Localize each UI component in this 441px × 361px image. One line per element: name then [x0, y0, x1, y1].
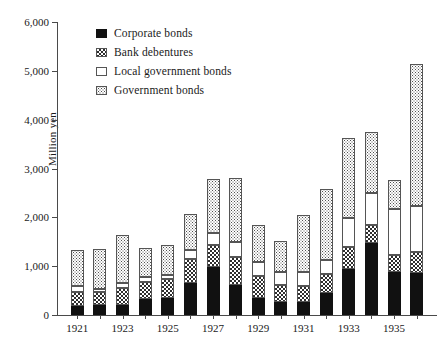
bar-segment-corporate-bonds	[252, 298, 265, 315]
bar-segment-government-bonds	[342, 138, 355, 218]
bar-segment-bank-debentures	[184, 259, 197, 283]
bar-segment-government-bonds	[207, 179, 220, 234]
bar-segment-corporate-bonds	[139, 299, 152, 315]
x-tick-mark	[213, 315, 214, 319]
y-tick-label: 6,000	[24, 16, 49, 28]
bar-segment-government-bonds	[116, 235, 129, 283]
y-tick-mark	[52, 22, 57, 23]
x-tick-label: 1933	[338, 322, 360, 334]
bar-segment-corporate-bonds	[342, 269, 355, 315]
bar-segment-government-bonds	[184, 214, 197, 250]
bar-segment-government-bonds	[320, 189, 333, 260]
bar-1933	[342, 138, 355, 315]
x-tick-mark	[371, 315, 372, 319]
y-tick-label: 5,000	[24, 65, 49, 77]
legend-item: Corporate bonds	[96, 24, 232, 43]
bar-segment-bank-debentures	[93, 292, 106, 305]
bar-segment-bank-debentures	[229, 257, 242, 285]
y-tick-mark	[52, 120, 57, 121]
bar-1931	[297, 215, 310, 315]
bar-segment-corporate-bonds	[116, 305, 129, 315]
bar-1930	[274, 241, 287, 315]
x-tick-mark	[326, 315, 327, 319]
x-tick-mark	[190, 315, 191, 319]
x-axis-line	[57, 315, 437, 316]
chart-legend: Corporate bondsBank debenturesLocal gove…	[96, 24, 232, 100]
x-tick-label: 1929	[247, 322, 269, 334]
bar-segment-government-bonds	[71, 250, 84, 286]
bar-segment-local-government-bonds	[388, 209, 401, 255]
bar-segment-corporate-bonds	[274, 302, 287, 315]
bar-segment-bank-debentures	[297, 286, 310, 302]
x-tick-mark	[394, 315, 395, 319]
bar-1921	[71, 250, 84, 315]
bar-segment-government-bonds	[161, 245, 174, 275]
bar-1929	[252, 225, 265, 315]
white-outline-swatch	[96, 67, 107, 76]
bar-segment-bank-debentures	[320, 274, 333, 293]
x-tick-label: 1931	[293, 322, 315, 334]
bar-segment-bank-debentures	[161, 279, 174, 298]
legend-label: Bank debentures	[114, 47, 193, 59]
y-tick-label: 4,000	[24, 114, 49, 126]
bar-segment-government-bonds	[139, 248, 152, 277]
x-tick-mark	[77, 315, 78, 319]
bar-segment-bank-debentures	[410, 252, 423, 273]
x-tick-mark	[123, 315, 124, 319]
x-tick-mark	[145, 315, 146, 319]
bar-segment-bank-debentures	[116, 288, 129, 306]
legend-label: Local government bonds	[114, 66, 232, 78]
bar-1927	[207, 179, 220, 315]
bar-segment-bank-debentures	[71, 292, 84, 306]
bar-segment-local-government-bonds	[207, 233, 220, 244]
x-tick-label: 1925	[157, 322, 179, 334]
x-tick-mark	[304, 315, 305, 319]
x-tick-mark	[258, 315, 259, 319]
bar-1928	[229, 178, 242, 315]
x-tick-mark	[236, 315, 237, 319]
x-tick-label: 1935	[383, 322, 405, 334]
bar-segment-bank-debentures	[365, 225, 378, 243]
bar-segment-government-bonds	[365, 132, 378, 193]
bar-segment-corporate-bonds	[207, 267, 220, 315]
bar-1936	[410, 64, 423, 315]
x-tick-mark	[100, 315, 101, 319]
bar-segment-corporate-bonds	[388, 272, 401, 315]
bar-1925	[161, 245, 174, 315]
bar-segment-government-bonds	[229, 178, 242, 241]
x-tick-mark	[417, 315, 418, 319]
bar-segment-government-bonds	[297, 215, 310, 272]
bar-1932	[320, 189, 333, 315]
bar-segment-corporate-bonds	[161, 298, 174, 315]
bar-segment-corporate-bonds	[365, 243, 378, 315]
y-tick-mark	[52, 266, 57, 267]
y-tick-label: 2,000	[24, 211, 49, 223]
x-tick-label: 1921	[66, 322, 88, 334]
bar-segment-bank-debentures	[388, 255, 401, 272]
bar-1924	[139, 248, 152, 315]
bar-segment-local-government-bonds	[252, 262, 265, 276]
checker-pattern-swatch	[96, 48, 107, 57]
bar-segment-bank-debentures	[139, 282, 152, 299]
x-tick-mark	[349, 315, 350, 319]
y-tick-label: 0	[44, 309, 50, 321]
legend-item: Government bonds	[96, 81, 232, 100]
dotted-pattern-swatch	[96, 86, 107, 95]
y-axis-line	[57, 22, 58, 315]
x-tick-label: 1927	[202, 322, 224, 334]
bar-segment-local-government-bonds	[342, 218, 355, 247]
y-tick-mark	[52, 71, 57, 72]
bar-segment-local-government-bonds	[297, 272, 310, 287]
bar-1923	[116, 235, 129, 315]
bar-segment-government-bonds	[274, 241, 287, 272]
bar-segment-government-bonds	[93, 249, 106, 289]
legend-label: Corporate bonds	[114, 28, 193, 40]
bar-segment-government-bonds	[410, 64, 423, 207]
bar-segment-local-government-bonds	[320, 260, 333, 275]
x-tick-label: 1923	[112, 322, 134, 334]
bar-segment-government-bonds	[388, 180, 401, 209]
bar-segment-corporate-bonds	[184, 283, 197, 315]
solid-black-swatch	[96, 29, 107, 38]
y-tick-mark	[52, 315, 57, 316]
x-tick-mark	[168, 315, 169, 319]
